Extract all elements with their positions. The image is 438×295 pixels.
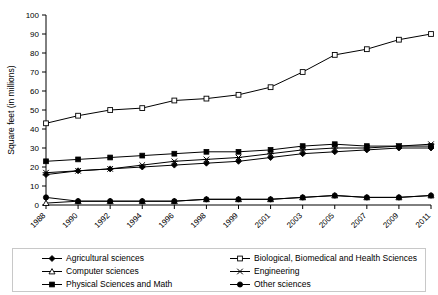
data-point bbox=[332, 53, 337, 58]
y-tick-label: 60 bbox=[30, 87, 39, 96]
x-tick-label: 1994 bbox=[125, 211, 144, 230]
x-axis: 1988199019921994199619981999200120032005… bbox=[28, 205, 432, 230]
data-point bbox=[300, 195, 305, 200]
x-tick-label: 1999 bbox=[221, 211, 240, 230]
data-point bbox=[172, 98, 177, 103]
cross-x-marker-icon bbox=[229, 266, 251, 277]
data-point bbox=[236, 92, 241, 97]
data-point bbox=[300, 144, 305, 149]
y-axis-title-text: Square feet (in millions) bbox=[6, 65, 16, 154]
legend-label: Computer sciences bbox=[66, 265, 139, 278]
legend-item-computer-sciences[interactable]: Computer sciences bbox=[13, 265, 219, 278]
plot-frame bbox=[46, 15, 431, 205]
y-tick-label: 80 bbox=[30, 49, 39, 58]
data-point bbox=[108, 199, 113, 204]
data-point bbox=[268, 85, 273, 90]
filled-circle-marker-icon bbox=[229, 279, 251, 290]
data-point bbox=[172, 199, 177, 204]
data-point bbox=[429, 32, 434, 37]
data-point bbox=[429, 144, 434, 149]
x-tick-label: 2003 bbox=[285, 211, 304, 230]
y-axis: 0102030405060708090100 bbox=[26, 11, 46, 210]
x-tick-label: 1992 bbox=[93, 211, 112, 230]
legend-label: Biological, Biomedical and Health Scienc… bbox=[254, 252, 417, 265]
data-point bbox=[268, 148, 273, 153]
y-tick-label: 0 bbox=[35, 201, 40, 210]
data-point bbox=[397, 37, 402, 42]
y-tick-label: 30 bbox=[30, 144, 39, 153]
legend-item-other-sciences[interactable]: Other sciences bbox=[219, 278, 425, 291]
legend-item-physical-sciences-and-math[interactable]: Physical Sciences and Math bbox=[13, 278, 219, 291]
open-square-marker-icon bbox=[229, 253, 251, 264]
data-point bbox=[236, 197, 241, 202]
data-point bbox=[140, 199, 145, 204]
data-point bbox=[332, 142, 337, 147]
data-point bbox=[364, 144, 369, 149]
y-tick-label: 70 bbox=[30, 68, 39, 77]
data-point bbox=[172, 151, 177, 156]
data-point bbox=[44, 121, 49, 126]
legend-item-engineering[interactable]: Engineering bbox=[219, 265, 425, 278]
legend-label: Engineering bbox=[254, 265, 299, 278]
x-tick-label: 1998 bbox=[189, 211, 208, 230]
legend-label: Other sciences bbox=[254, 278, 311, 291]
data-point bbox=[76, 113, 81, 118]
series-layer bbox=[43, 32, 435, 206]
data-point bbox=[396, 195, 401, 200]
data-point bbox=[428, 193, 433, 198]
x-tick-label: 2011 bbox=[414, 211, 433, 230]
series-biological-biomedical-and-health-sciences bbox=[44, 32, 434, 126]
chart-legend: Agricultural sciencesBiological, Biomedi… bbox=[12, 248, 426, 292]
filled-diamond-marker-icon bbox=[41, 253, 63, 264]
data-point bbox=[204, 149, 209, 154]
data-point bbox=[236, 149, 241, 154]
legend-label: Agricultural sciences bbox=[66, 252, 144, 265]
x-tick-label: 2005 bbox=[317, 211, 336, 230]
series-other-sciences bbox=[43, 193, 433, 204]
legend-item-biological-biomedical-and-health-sciences[interactable]: Biological, Biomedical and Health Scienc… bbox=[219, 252, 425, 265]
chart-container: 0102030405060708090100 19881990199219941… bbox=[0, 0, 438, 295]
open-triangle-marker-icon bbox=[41, 266, 63, 277]
data-point bbox=[300, 70, 305, 75]
data-point bbox=[108, 108, 113, 113]
data-point bbox=[140, 153, 145, 158]
y-tick-label: 90 bbox=[30, 30, 39, 39]
x-tick-label: 1990 bbox=[61, 211, 80, 230]
y-tick-label: 20 bbox=[30, 163, 39, 172]
data-point bbox=[364, 47, 369, 52]
data-point bbox=[204, 96, 209, 101]
data-point bbox=[44, 159, 49, 164]
y-tick-label: 40 bbox=[30, 125, 39, 134]
data-point bbox=[204, 197, 209, 202]
y-tick-label: 10 bbox=[30, 182, 39, 191]
legend-label: Physical Sciences and Math bbox=[66, 278, 172, 291]
x-tick-label: 1996 bbox=[157, 211, 176, 230]
filled-square-marker-icon bbox=[41, 279, 63, 290]
x-tick-label: 2007 bbox=[349, 211, 368, 230]
y-tick-label: 50 bbox=[30, 106, 39, 115]
data-point bbox=[140, 106, 145, 111]
data-point bbox=[397, 144, 402, 149]
data-point bbox=[43, 195, 48, 200]
data-point bbox=[108, 155, 113, 160]
data-point bbox=[75, 199, 80, 204]
x-tick-label: 2009 bbox=[381, 211, 400, 230]
y-axis-title: Square feet (in millions) bbox=[6, 65, 16, 154]
legend-item-agricultural-sciences[interactable]: Agricultural sciences bbox=[13, 252, 219, 265]
x-tick-label: 1988 bbox=[28, 211, 47, 230]
x-tick-label: 2001 bbox=[253, 211, 272, 230]
series-path bbox=[46, 34, 431, 123]
data-point bbox=[332, 193, 337, 198]
y-tick-label: 100 bbox=[26, 11, 40, 20]
data-point bbox=[268, 197, 273, 202]
data-point bbox=[76, 157, 81, 162]
data-point bbox=[364, 195, 369, 200]
